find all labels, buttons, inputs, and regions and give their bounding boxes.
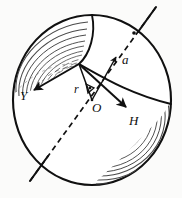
label-radius-r: r (74, 82, 79, 96)
axis-stub-top (138, 7, 156, 32)
sphere-diagram-figure: Y a H r O (0, 0, 182, 198)
angle-marker-dot (89, 87, 92, 90)
label-center-o: O (92, 100, 102, 115)
diagram-canvas: Y a H r O (0, 0, 182, 198)
label-vector-h: H (128, 113, 139, 128)
surface-point-dot (132, 31, 136, 35)
label-vector-a: a (122, 52, 129, 67)
